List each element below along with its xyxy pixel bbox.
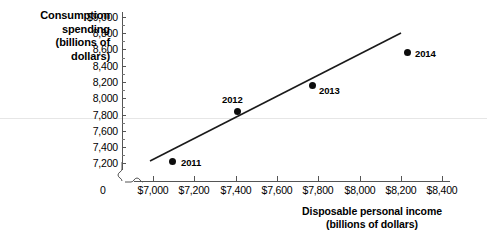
data-point: [404, 49, 411, 56]
data-point-label: 2013: [319, 85, 340, 96]
plot-area: 0 $9,000 8,800 8,600 8,400 8,200 8,000 7…: [0, 0, 487, 241]
data-point: [234, 108, 241, 115]
data-point: [169, 158, 176, 165]
data-point: [309, 82, 316, 89]
data-point-label: 2011: [181, 157, 201, 168]
chart-screenshot: Consumption spending (billions of dollar…: [0, 0, 487, 241]
data-point-label: 2012: [222, 94, 243, 105]
data-point-label: 2014: [415, 48, 436, 59]
trend-line: [0, 0, 487, 241]
